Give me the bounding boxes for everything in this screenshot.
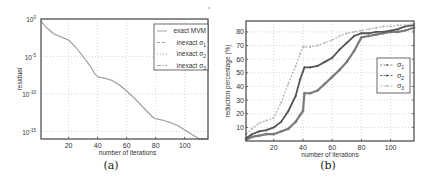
legend-marker: [386, 64, 388, 66]
y-axis-label: residual: [16, 67, 23, 90]
y-tick-label: 100: [26, 15, 36, 23]
legend-marker: [386, 85, 388, 87]
legend: σ1σ2σ3: [377, 58, 410, 93]
x-tick-label: 20: [270, 144, 278, 151]
x-tick-label: 20: [65, 142, 73, 149]
chart-a: 2040608010010010-510-1010-15number of it…: [0, 0, 215, 185]
y-axis-label: reduction percentage (%): [224, 45, 232, 118]
x-axis-label: number of iterations: [301, 151, 359, 158]
x-tick-label: 40: [94, 142, 102, 149]
x-tick-label: 100: [179, 142, 191, 149]
legend-label: exact MVM: [173, 27, 206, 34]
y-tick-label: 10-10: [22, 90, 36, 98]
y-tick-label: 20: [236, 110, 244, 117]
artifact-dot: [208, 7, 209, 8]
x-tick-label: 40: [299, 144, 307, 151]
figure-b: 204060801001020304050607080number of ite…: [215, 0, 431, 185]
x-tick-label: 60: [328, 144, 336, 151]
chart-b: 204060801001020304050607080number of ite…: [215, 0, 431, 185]
legend: exact MVMinexact σ1inexact σ2inexact σ3: [154, 24, 208, 71]
x-tick-label: 60: [123, 142, 131, 149]
x-axis-label: number of iterations: [99, 149, 157, 156]
figure-a: 2040608010010010-510-1010-15number of it…: [0, 0, 215, 185]
x-tick-label: 100: [385, 144, 397, 151]
y-tick-label: 80: [236, 28, 244, 35]
x-tick-label: 80: [358, 144, 366, 151]
y-tick-label: 30: [236, 97, 244, 104]
caption-a: (a): [103, 159, 118, 172]
y-tick-label: 10-15: [22, 128, 36, 136]
caption-b: (b): [320, 159, 336, 172]
y-tick-label: 50: [236, 69, 244, 76]
y-tick-label: 10-5: [25, 53, 37, 61]
y-tick-label: 60: [236, 56, 244, 63]
x-tick-label: 80: [152, 142, 160, 149]
y-tick-label: 10: [236, 124, 244, 131]
y-tick-label: 70: [236, 42, 244, 49]
y-tick-label: 40: [236, 83, 244, 90]
legend-marker: [386, 74, 388, 76]
